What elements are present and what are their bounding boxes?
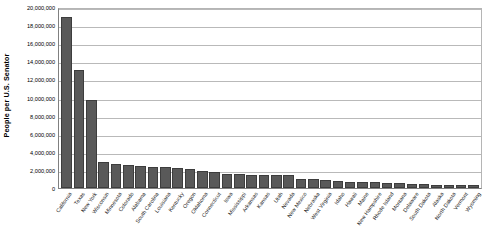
bar: [234, 174, 245, 188]
bar: [468, 185, 479, 188]
bar: [407, 184, 418, 188]
y-axis-tick-labels: 20,000,00018,000,00016,000,00014,000,000…: [13, 0, 57, 190]
bar: [246, 175, 257, 188]
bar: [209, 172, 220, 188]
x-axis-tick-label: California: [55, 191, 73, 214]
bar: [148, 167, 159, 188]
y-axis-tick-label: 2,000,000: [30, 168, 55, 174]
x-axis-tick-labels: CaliforniaTexasNew YorkWisconsinMinnesot…: [58, 190, 482, 246]
bar: [320, 180, 331, 188]
bar: [197, 171, 208, 188]
plot-area: [58, 8, 482, 189]
bar: [111, 164, 122, 188]
bar: [123, 165, 134, 188]
bar: [259, 175, 270, 188]
y-axis-tick-label: 16,000,000: [27, 41, 55, 47]
bar: [98, 162, 109, 188]
bar: [333, 181, 344, 188]
bar: [370, 182, 381, 188]
y-axis-title-text: People per U.S. Senator: [3, 53, 12, 137]
y-axis-tick-label: 12,000,000: [27, 77, 55, 83]
bar: [61, 17, 72, 188]
y-axis-tick-label: 8,000,000: [30, 114, 55, 120]
bar: [86, 100, 97, 188]
bar: [357, 182, 368, 188]
bar: [382, 183, 393, 188]
bar: [283, 175, 294, 188]
bar-chart: People per U.S. Senator 20,000,00018,000…: [0, 0, 488, 246]
y-axis-tick-label: 14,000,000: [27, 59, 55, 65]
bar: [431, 185, 442, 188]
bar: [172, 168, 183, 188]
bar: [394, 183, 405, 188]
bar: [308, 179, 319, 188]
bar: [296, 179, 307, 189]
y-axis-tick-label: 20,000,000: [27, 5, 55, 11]
bar: [185, 169, 196, 188]
bar: [444, 185, 455, 188]
y-axis-tick-label: 18,000,000: [27, 23, 55, 29]
bar: [222, 174, 233, 188]
x-axis-tick-label: Iowa: [223, 191, 235, 204]
bar: [160, 167, 171, 188]
bar: [456, 185, 467, 188]
bar: [419, 184, 430, 188]
bar: [135, 166, 146, 188]
bar: [271, 175, 282, 188]
y-axis-tick-label: 4,000,000: [30, 150, 55, 156]
bar: [345, 182, 356, 188]
y-axis-tick-label: 0: [52, 186, 55, 192]
y-axis-title: People per U.S. Senator: [0, 0, 14, 190]
y-axis-tick-label: 10,000,000: [27, 96, 55, 102]
bar: [74, 70, 85, 188]
y-axis-tick-label: 6,000,000: [30, 132, 55, 138]
bars-layer: [59, 9, 481, 188]
